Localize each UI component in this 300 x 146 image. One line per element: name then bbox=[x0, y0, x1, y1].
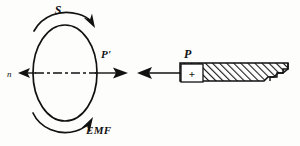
diagram-canvas: S n P' EMF + P bbox=[0, 0, 300, 146]
ray-label-p: P bbox=[184, 47, 192, 61]
top-rotation-arrowhead bbox=[84, 14, 96, 29]
emf-label: EMF bbox=[85, 124, 112, 136]
physics-diagram-figure: S n P' EMF + P bbox=[0, 0, 300, 146]
top-rotation-arrow-arc bbox=[34, 12, 91, 31]
rotation-label-s: S bbox=[55, 3, 62, 17]
polarity-plus-label: + bbox=[189, 68, 195, 80]
ray-prime-label: P' bbox=[101, 48, 111, 60]
normal-label-n: n bbox=[7, 69, 12, 79]
